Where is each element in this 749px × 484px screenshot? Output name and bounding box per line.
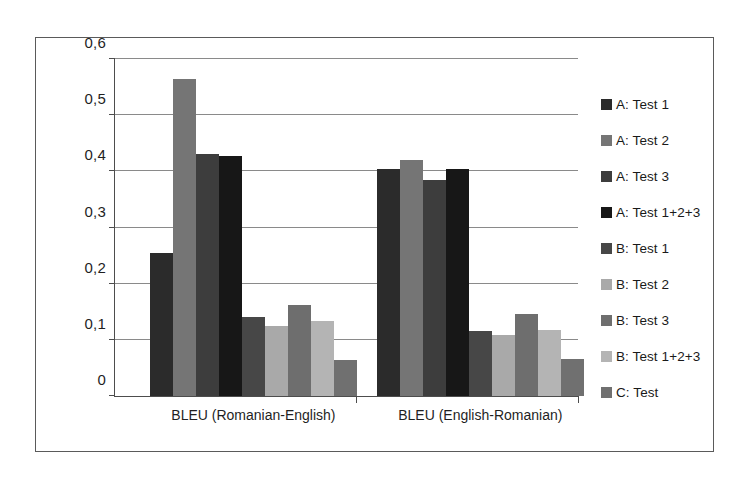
x-axis-tick (356, 396, 357, 403)
legend-item[interactable]: B: Test 1+2+3 (601, 338, 721, 374)
bar (150, 253, 173, 396)
y-axis-tick (109, 339, 115, 340)
legend-swatch-icon (601, 315, 612, 326)
x-axis-category-label: BLEU (Romanian-English) (171, 407, 335, 423)
y-axis-tick (109, 395, 115, 396)
legend-item-label: A: Test 2 (616, 133, 669, 148)
y-axis-tick-label: 0,4 (85, 146, 106, 163)
bar (561, 359, 584, 396)
bar-group (377, 59, 584, 396)
y-axis-tick (109, 227, 115, 228)
y-axis-tick (109, 58, 115, 59)
bar (219, 156, 242, 396)
chart-figure-frame: 00,10,20,30,40,50,6 BLEU (Romanian-Engli… (35, 37, 714, 452)
legend-item-label: B: Test 1 (616, 241, 669, 256)
legend-item-label: A: Test 1+2+3 (616, 205, 700, 220)
x-axis-category-label: BLEU (English-Romanian) (398, 407, 562, 423)
y-axis-tick-label: 0,2 (85, 258, 106, 275)
legend-swatch-icon (601, 351, 612, 362)
legend-item[interactable]: A: Test 1+2+3 (601, 194, 721, 230)
legend-item[interactable]: C: Test (601, 374, 721, 410)
bar (265, 326, 288, 396)
bar (196, 154, 219, 396)
y-axis-tick (109, 114, 115, 115)
legend-item-label: A: Test 1 (616, 97, 669, 112)
bar (538, 330, 561, 396)
bar (288, 305, 311, 396)
bar-group (150, 59, 357, 396)
plot-area: 00,10,20,30,40,50,6 BLEU (Romanian-Engli… (114, 59, 578, 397)
legend-swatch-icon (601, 171, 612, 182)
legend-swatch-icon (601, 99, 612, 110)
legend-item[interactable]: B: Test 3 (601, 302, 721, 338)
bar (173, 79, 196, 396)
legend-item-label: A: Test 3 (616, 169, 669, 184)
legend-swatch-icon (601, 207, 612, 218)
legend-item-label: B: Test 1+2+3 (616, 349, 700, 364)
bar (311, 321, 334, 396)
y-axis-tick-label: 0,1 (85, 314, 106, 331)
legend-item[interactable]: A: Test 3 (601, 158, 721, 194)
legend-item[interactable]: A: Test 1 (601, 86, 721, 122)
y-axis-tick (109, 283, 115, 284)
y-axis-tick-label: 0,6 (85, 34, 106, 51)
bar (242, 317, 265, 396)
bar (334, 360, 357, 397)
bar (377, 169, 400, 396)
bar (469, 331, 492, 396)
legend-swatch-icon (601, 279, 612, 290)
bar (400, 160, 423, 396)
chart-legend: A: Test 1A: Test 2A: Test 3A: Test 1+2+3… (601, 86, 721, 410)
y-axis-tick-label: 0,5 (85, 90, 106, 107)
legend-item[interactable]: B: Test 1 (601, 230, 721, 266)
x-axis-tick (578, 396, 579, 403)
bar (446, 169, 469, 396)
legend-item-label: B: Test 3 (616, 313, 669, 328)
legend-swatch-icon (601, 135, 612, 146)
legend-item-label: C: Test (616, 385, 658, 400)
legend-item[interactable]: A: Test 2 (601, 122, 721, 158)
y-axis-tick-label: 0 (97, 371, 106, 388)
bar (515, 314, 538, 396)
y-axis-tick-label: 0,3 (85, 202, 106, 219)
legend-item-label: B: Test 2 (616, 277, 669, 292)
bar (423, 180, 446, 396)
legend-swatch-icon (601, 387, 612, 398)
y-axis-tick (109, 170, 115, 171)
legend-item[interactable]: B: Test 2 (601, 266, 721, 302)
legend-swatch-icon (601, 243, 612, 254)
bar (492, 335, 515, 396)
